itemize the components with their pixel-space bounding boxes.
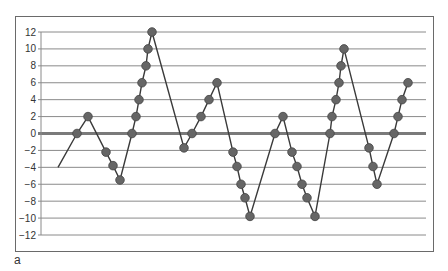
data-point-marker (335, 78, 344, 87)
data-point-marker (233, 162, 242, 171)
data-point-marker (138, 78, 147, 87)
data-point-marker (328, 112, 337, 121)
data-point-marker (394, 112, 403, 121)
data-point-marker (180, 144, 189, 153)
data-point-marker (237, 180, 246, 189)
data-point-marker (84, 112, 93, 121)
data-point-marker (73, 129, 82, 138)
data-point-marker (303, 193, 312, 202)
panel-label: a (14, 253, 21, 267)
data-series (58, 28, 412, 221)
y-tick-label: −10 (19, 213, 36, 224)
y-axis: 121086420−2−4−6−8−10−12 (19, 27, 41, 241)
data-point-marker (144, 45, 153, 54)
data-point-marker (293, 162, 302, 171)
data-point-marker (271, 129, 280, 138)
data-point-marker (373, 180, 382, 189)
data-point-marker (213, 78, 222, 87)
data-point-marker (332, 95, 341, 104)
data-point-marker (229, 148, 238, 157)
data-point-marker (390, 129, 399, 138)
data-point-marker (102, 148, 111, 157)
data-point-marker (326, 129, 335, 138)
y-tick-label: 4 (30, 94, 36, 105)
data-point-marker (340, 45, 349, 54)
y-tick-label: −6 (25, 179, 37, 190)
data-point-marker (116, 176, 125, 185)
data-point-marker (188, 129, 197, 138)
y-tick-label: 10 (25, 43, 37, 54)
data-point-marker (311, 212, 320, 221)
y-tick-label: 8 (30, 60, 36, 71)
data-point-marker (205, 95, 214, 104)
data-point-marker (369, 162, 378, 171)
y-tick-label: −12 (19, 230, 36, 241)
y-tick-label: −8 (25, 196, 37, 207)
y-tick-label: 12 (25, 27, 37, 38)
data-point-marker (132, 112, 141, 121)
data-point-marker (404, 78, 413, 87)
series-line (58, 32, 408, 216)
y-tick-label: 6 (30, 77, 36, 88)
data-point-marker (246, 212, 255, 221)
data-point-marker (135, 95, 144, 104)
y-tick-label: 2 (30, 111, 36, 122)
data-point-marker (197, 112, 206, 121)
y-tick-label: −4 (25, 162, 37, 173)
data-point-marker (398, 95, 407, 104)
line-chart: 121086420−2−4−6−8−10−12 (0, 0, 448, 271)
data-point-marker (298, 180, 307, 189)
data-point-marker (241, 193, 250, 202)
data-point-marker (109, 161, 118, 170)
data-point-marker (288, 148, 297, 157)
data-point-marker (365, 144, 374, 153)
y-tick-label: 0 (30, 128, 36, 139)
data-point-marker (337, 62, 346, 71)
data-point-marker (128, 129, 137, 138)
y-tick-label: −2 (25, 145, 37, 156)
data-point-marker (279, 112, 288, 121)
data-point-marker (148, 28, 157, 37)
data-point-marker (142, 62, 151, 71)
